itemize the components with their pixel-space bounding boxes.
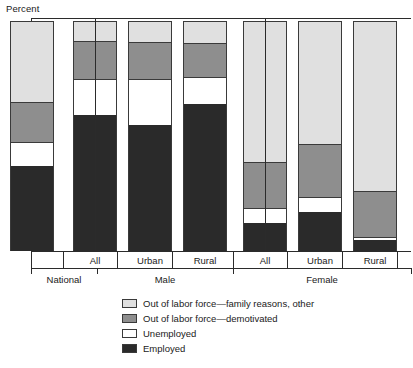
bar-segment-family[interactable] [129, 21, 171, 42]
group-rule [97, 268, 233, 269]
bar-segment-family[interactable] [299, 21, 341, 144]
bar-segment-unemployed[interactable] [184, 77, 226, 103]
bar-segment-demotivated[interactable] [184, 43, 226, 78]
category-label: Rural [345, 255, 405, 266]
bar-segment-family[interactable] [354, 21, 396, 191]
category-tick [397, 252, 398, 268]
bar-segment-demotivated[interactable] [129, 42, 171, 79]
legend-item[interactable]: Unemployed [122, 326, 314, 341]
legend-label: Unemployed [143, 328, 196, 339]
demotivated-swatch [122, 314, 137, 323]
bar-column[interactable] [183, 21, 227, 251]
bar-segment-unemployed[interactable] [299, 197, 341, 212]
x-axis-line [31, 251, 411, 252]
bar-column[interactable] [353, 21, 397, 251]
group-label: National [31, 274, 97, 285]
group-rule [233, 268, 411, 269]
category-label: Rural [175, 255, 235, 266]
group-label: Male [97, 274, 233, 285]
category-label: All [235, 255, 295, 266]
category-tick [31, 252, 32, 268]
group-tick [411, 268, 412, 274]
legend-label: Employed [143, 343, 185, 354]
legend-item[interactable]: Employed [122, 341, 314, 356]
bar-segment-employed[interactable] [354, 240, 396, 252]
bar-column[interactable] [298, 21, 342, 251]
category-tick [172, 252, 173, 268]
category-tick [63, 252, 64, 268]
group-separator [265, 18, 266, 251]
group-separator [95, 18, 96, 251]
category-tick [233, 252, 234, 268]
legend-item[interactable]: Out of labor force—family reasons, other [122, 296, 314, 311]
bar-segment-family[interactable] [11, 21, 53, 102]
group-rule [31, 268, 97, 269]
bar-segment-employed[interactable] [129, 125, 171, 252]
bar-segment-family[interactable] [184, 21, 226, 43]
bar-column[interactable] [10, 21, 54, 251]
bar-segment-employed[interactable] [299, 212, 341, 251]
bar-segment-employed[interactable] [11, 166, 53, 251]
category-tick [117, 252, 118, 268]
bar-segment-demotivated[interactable] [11, 102, 53, 142]
bar-column[interactable] [128, 21, 172, 251]
stacked-bar-chart: Percent 908070605040302010 AllUrbanRural… [0, 0, 413, 368]
bar-segment-unemployed[interactable] [11, 142, 53, 166]
plot-area [32, 18, 411, 251]
bar-segment-unemployed[interactable] [129, 79, 171, 125]
family-swatch [122, 299, 137, 308]
category-label: All [65, 255, 125, 266]
category-tick [342, 252, 343, 268]
bar-segment-employed[interactable] [184, 104, 226, 251]
legend-label: Out of labor force—family reasons, other [143, 298, 314, 309]
category-tick [287, 252, 288, 268]
employed-swatch [122, 344, 137, 353]
bar-segment-demotivated[interactable] [299, 144, 341, 197]
category-label: Urban [290, 255, 350, 266]
legend-label: Out of labor force—demotivated [143, 313, 278, 324]
bar-segment-demotivated[interactable] [354, 191, 396, 237]
category-label: Urban [120, 255, 180, 266]
legend-item[interactable]: Out of labor force—demotivated [122, 311, 314, 326]
chart-legend: Out of labor force—family reasons, other… [122, 296, 314, 356]
group-label: Female [233, 274, 411, 285]
unemployed-swatch [122, 329, 137, 338]
